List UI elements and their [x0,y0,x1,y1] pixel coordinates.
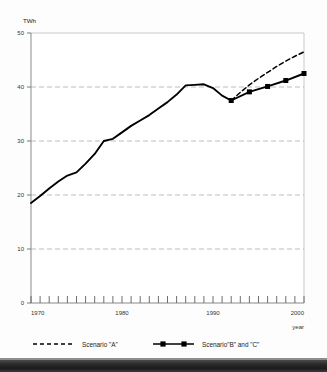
y-tick-label-30: 30 [17,138,24,144]
y-tick-label-40: 40 [17,84,24,90]
legend-label-scenario-bc: Scenario"B" and "C" [202,341,259,348]
data-point-marker [247,89,252,94]
data-point-marker [229,98,234,103]
y-axis-unit-label: TWh [23,17,37,24]
x-tick-label-2000: 2000 [291,310,305,316]
data-point-marker [265,84,270,89]
x-tick-label-1980: 1980 [115,310,129,316]
y-tick-label-50: 50 [17,30,24,36]
chart-figure: 01020304050 1970198019902000 TWh year Sc… [0,0,327,372]
chart-legend: Scenario "A" Scenario"B" and "C" [33,341,259,348]
plot-frame [31,33,304,303]
y-tick-labels: 01020304050 [17,30,24,306]
line-chart: 01020304050 1970198019902000 TWh year Sc… [0,0,327,372]
data-point-marker [283,78,288,83]
legend-marker-left [160,341,165,346]
x-tick-label-1990: 1990 [206,310,220,316]
plot-background [31,33,304,303]
x-tick-label-1970: 1970 [31,310,45,316]
y-tick-marks [27,33,31,303]
data-point-marker [302,71,307,76]
y-tick-label-0: 0 [21,300,25,306]
y-tick-label-20: 20 [17,192,24,198]
x-axis-name-label: year [292,324,304,330]
y-tick-label-10: 10 [17,246,24,252]
scan-shadow-band [0,360,327,372]
legend-marker-right [181,341,186,346]
legend-label-scenario-a: Scenario "A" [82,341,118,348]
x-tick-labels: 1970198019902000 [31,310,305,316]
